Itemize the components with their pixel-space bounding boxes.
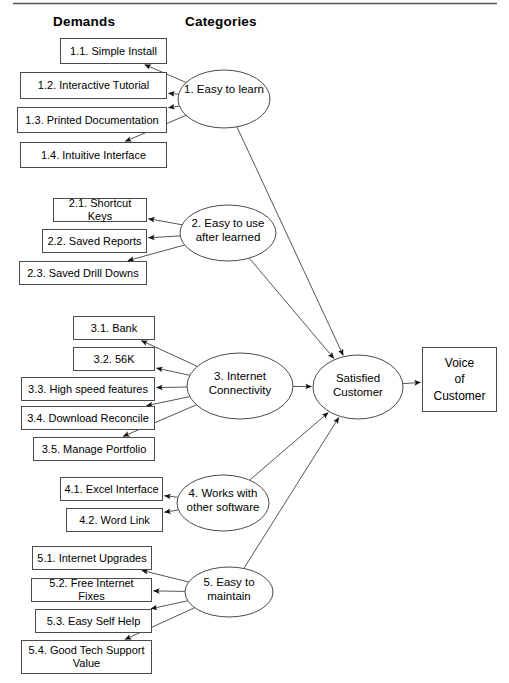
category-ellipse-4[interactable] xyxy=(177,475,269,531)
connector-cat4-to-satisfied-customer xyxy=(250,413,329,481)
connector-cat1-to-1.2 xyxy=(169,93,179,94)
connector-satisfied-customer-to-voice-of-customer xyxy=(403,382,421,383)
satisfied-customer-node[interactable] xyxy=(313,355,403,419)
demand-box-3-2[interactable]: 3.2. 56K xyxy=(73,347,155,371)
demand-box-1-2[interactable]: 1.2. Interactive Tutorial xyxy=(20,72,167,99)
demand-box-3-5[interactable]: 3.5. Manage Portfolio xyxy=(33,437,155,461)
demand-box-4-2[interactable]: 4.2. Word Link xyxy=(66,508,163,532)
demand-box-3-1[interactable]: 3.1. Bank xyxy=(73,316,155,340)
column-header-categories: Categories xyxy=(185,14,257,29)
connector-cat4-to-4.2 xyxy=(165,510,179,512)
connector-cat5-to-5.3 xyxy=(151,601,188,609)
connector-cat1-to-1.3 xyxy=(169,106,180,108)
demand-box-1-4[interactable]: 1.4. Intuitive Interface xyxy=(20,142,167,168)
category-ellipse-5[interactable] xyxy=(185,567,273,617)
column-header-demands: Demands xyxy=(53,14,115,29)
voice-of-customer-box[interactable]: Voice of Customer xyxy=(422,347,497,412)
category-ellipse-2[interactable] xyxy=(180,205,276,261)
demand-box-5-1[interactable]: 5.1. Internet Upgrades xyxy=(32,546,152,570)
category-ellipse-1[interactable] xyxy=(178,70,270,128)
demand-box-1-1[interactable]: 1.1. Simple Install xyxy=(60,38,167,64)
demand-box-3-4[interactable]: 3.4. Download Reconcile xyxy=(21,406,155,430)
demand-box-2-1[interactable]: 2.1. Shortcut Keys xyxy=(53,198,147,222)
diagram-canvas: Demands Categories 1.1. Simple Install1.… xyxy=(0,0,509,683)
connector-cat3-to-3.3 xyxy=(157,387,188,388)
demand-box-5-4[interactable]: 5.4. Good Tech Support Value xyxy=(21,640,152,674)
demand-box-5-2[interactable]: 5.2. Free Internet Fixes xyxy=(31,578,152,602)
demand-box-2-3[interactable]: 2.3. Saved Drill Downs xyxy=(19,261,147,285)
category-ellipse-3[interactable] xyxy=(187,353,293,419)
connector-cat2-to-2.1 xyxy=(149,219,183,225)
demand-box-3-3[interactable]: 3.3. High speed features xyxy=(21,377,155,401)
demand-box-2-2[interactable]: 2.2. Saved Reports xyxy=(42,229,147,253)
connector-cat3-to-3.2 xyxy=(157,368,190,375)
demand-box-5-3[interactable]: 5.3. Easy Self Help xyxy=(35,609,152,633)
demand-box-4-1[interactable]: 4.1. Excel Interface xyxy=(60,477,163,501)
demand-box-1-3[interactable]: 1.3. Printed Documentation xyxy=(17,107,167,133)
connector-cat2-to-2.2 xyxy=(149,236,181,238)
connector-cat5-to-5.2 xyxy=(154,591,186,592)
connector-cat4-to-4.1 xyxy=(165,496,178,498)
